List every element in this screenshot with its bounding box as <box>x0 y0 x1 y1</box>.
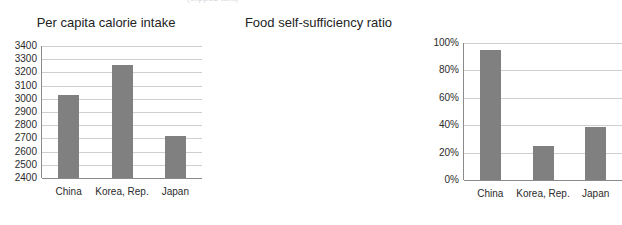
plot-area-self-sufficiency: 100%80%60%40%20%0%ChinaKorea, Rep.Japan <box>464 43 622 180</box>
y-axis-tick-label: 40% <box>439 120 459 130</box>
x-axis-tick-label: Korea, Rep. <box>95 186 148 197</box>
y-axis-tick-label: 2400 <box>15 173 37 183</box>
y-axis-tick-label: 60% <box>439 93 459 103</box>
y-axis-tick-label: 0% <box>445 175 459 185</box>
x-axis-tick-label: Japan <box>162 186 189 197</box>
y-axis-tick-label: 20% <box>439 148 459 158</box>
chart-title-self-sufficiency: Food self-sufficiency ratio <box>212 15 425 30</box>
axis-baseline: 0% <box>464 180 622 181</box>
y-axis-tick-label: 3000 <box>15 94 37 104</box>
gridline: 100% <box>464 43 622 44</box>
x-axis-tick-label: Korea, Rep. <box>516 188 569 199</box>
gridline: 3300 <box>42 59 202 60</box>
bar-japan <box>165 136 186 178</box>
y-axis-tick-label: 100% <box>433 38 459 48</box>
gridline: 3400 <box>42 46 202 47</box>
x-axis-tick-label: China <box>56 186 82 197</box>
x-axis-tick-label: Japan <box>582 188 609 199</box>
y-axis-tick-label: 3300 <box>15 54 37 64</box>
y-axis-line-right <box>463 43 464 180</box>
bar-china <box>58 95 79 178</box>
y-axis-tick-label: 3200 <box>15 67 37 77</box>
y-axis-tick-label: 2700 <box>15 133 37 143</box>
x-axis-tick-label: China <box>477 188 503 199</box>
chart-panel-self-sufficiency: Food self-sufficiency ratio 100%80%60%40… <box>212 0 425 225</box>
axis-baseline: 2400 <box>42 178 202 179</box>
bar-korea-rep <box>112 65 133 178</box>
y-axis-tick-label: 2500 <box>15 160 37 170</box>
y-axis-tick-label: 2800 <box>15 120 37 130</box>
chart-panel-calorie-intake: Per capita calorie intake 34003300320031… <box>0 0 212 225</box>
y-axis-tick-label: 3400 <box>15 41 37 51</box>
y-axis-tick-label: 2600 <box>15 147 37 157</box>
y-axis-tick-label: 2900 <box>15 107 37 117</box>
chart-title-calorie-intake: Per capita calorie intake <box>0 15 212 30</box>
plot-area-calorie-intake: 3400330032003100300029002800270026002500… <box>42 46 202 178</box>
bar-japan <box>585 127 606 180</box>
bar-korea-rep <box>533 146 554 180</box>
y-axis-tick-label: 3100 <box>15 81 37 91</box>
y-axis-tick-label: 80% <box>439 65 459 75</box>
bar-china <box>480 50 501 180</box>
